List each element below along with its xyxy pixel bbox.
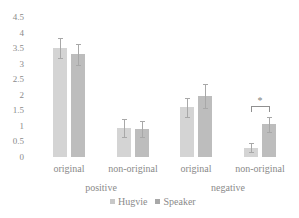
error-bar xyxy=(124,119,125,138)
bar-speaker xyxy=(71,54,85,157)
error-bar xyxy=(60,38,61,59)
y-tick-label: 3 xyxy=(2,59,24,69)
x-category-label: original xyxy=(161,163,231,174)
error-bar-cap xyxy=(140,137,145,138)
y-tick-label: 1 xyxy=(2,121,24,131)
legend: Hugvie Speaker xyxy=(110,196,196,207)
legend-swatch-icon xyxy=(110,199,115,204)
legend-item-hugvie: Hugvie xyxy=(110,196,147,207)
error-bar xyxy=(205,84,206,108)
error-bar-cap xyxy=(140,121,145,122)
error-bar-cap xyxy=(249,143,254,144)
legend-swatch-icon xyxy=(155,199,160,204)
legend-label: Hugvie xyxy=(118,196,147,207)
bar-hugvie xyxy=(53,48,67,157)
error-bar-cap xyxy=(203,108,208,109)
error-bar xyxy=(251,143,252,152)
significance-star: * xyxy=(255,95,265,106)
x-category-label: non-original xyxy=(225,163,295,174)
x-group-label: positive xyxy=(61,182,141,193)
bar-chart: 00.511.522.533.544.5 originalnon-origina… xyxy=(0,0,299,218)
y-tick-label: 4.5 xyxy=(2,12,24,22)
y-tick-label: 4 xyxy=(2,28,24,38)
significance-bracket xyxy=(251,106,269,107)
error-bar xyxy=(187,98,188,117)
error-bar-cap xyxy=(58,38,63,39)
error-bar-cap xyxy=(122,119,127,120)
error-bar xyxy=(142,121,143,138)
y-tick-label: 0 xyxy=(2,152,24,162)
error-bar-cap xyxy=(122,137,127,138)
legend-item-speaker: Speaker xyxy=(155,196,195,207)
error-bar-cap xyxy=(249,152,254,153)
x-category-label: non-original xyxy=(98,163,168,174)
error-bar xyxy=(78,44,79,65)
error-bar-cap xyxy=(58,58,63,59)
legend-label: Speaker xyxy=(163,196,195,207)
significance-bracket-leg xyxy=(269,106,270,112)
error-bar-cap xyxy=(203,84,208,85)
error-bar-cap xyxy=(185,98,190,99)
error-bar-cap xyxy=(185,117,190,118)
y-tick-label: 2 xyxy=(2,90,24,100)
y-tick-label: 0.5 xyxy=(2,136,24,146)
error-bar xyxy=(269,117,270,133)
error-bar-cap xyxy=(267,117,272,118)
y-tick-label: 2.5 xyxy=(2,74,24,84)
error-bar-cap xyxy=(267,132,272,133)
y-tick-label: 3.5 xyxy=(2,43,24,53)
x-group-label: negative xyxy=(188,182,268,193)
y-tick-label: 1.5 xyxy=(2,105,24,115)
significance-bracket-leg xyxy=(251,106,252,112)
error-bar-cap xyxy=(76,65,81,66)
error-bar-cap xyxy=(76,44,81,45)
x-category-label: original xyxy=(34,163,104,174)
